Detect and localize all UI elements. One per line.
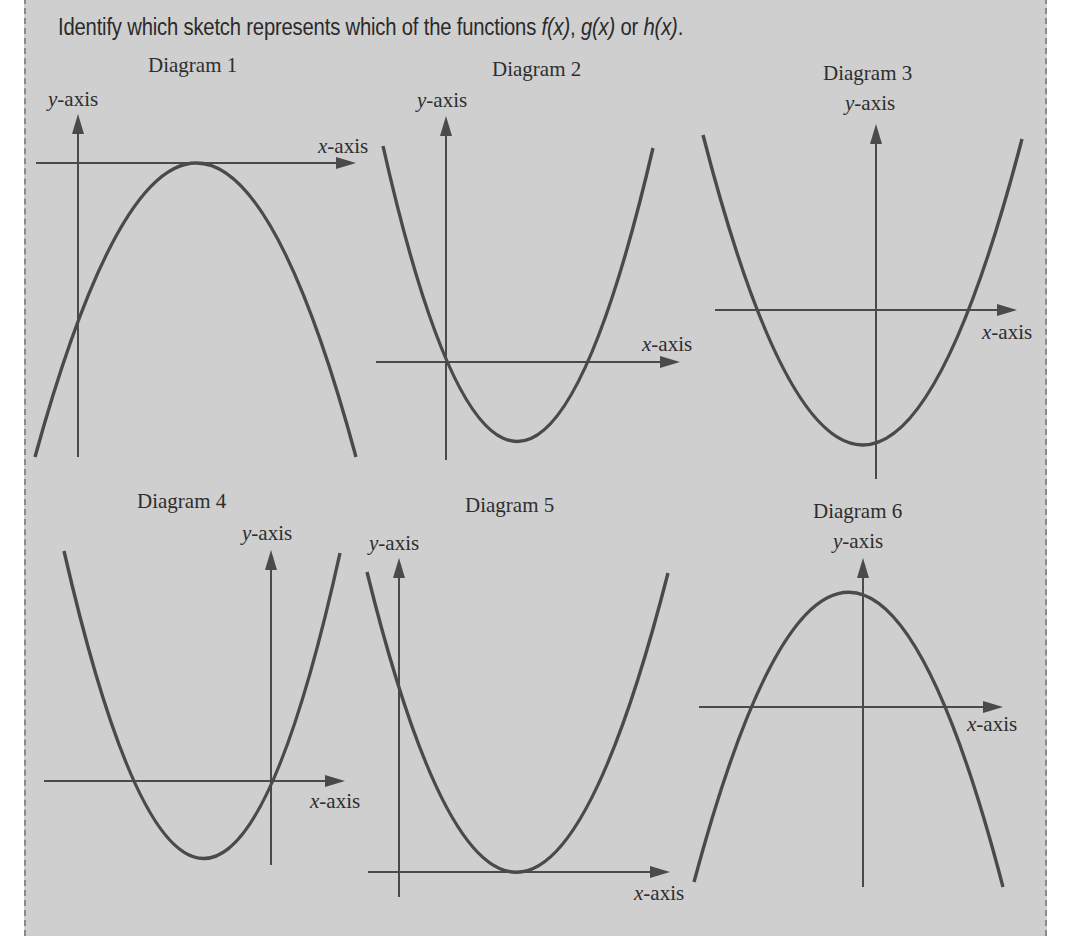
- arrow-right-icon: [650, 866, 670, 878]
- diagram-4: Diagram 4 y-axis x-axis: [44, 489, 360, 865]
- y-axis-label: y-axis: [240, 521, 292, 545]
- diagram-5: Diagram 5 y-axis x-axis: [367, 493, 684, 905]
- arrow-right-icon: [336, 157, 356, 169]
- arrow-up-icon: [857, 558, 869, 578]
- arrow-right-icon: [325, 775, 345, 787]
- diagram-title: Diagram 5: [465, 493, 554, 517]
- x-axis-label: x-axis: [981, 320, 1032, 344]
- diagram-3: Diagram 3 y-axis x-axis: [703, 61, 1032, 479]
- arrow-right-icon: [660, 356, 680, 368]
- diagrams-figure: Diagram 1 y-axis x-axis Diagram 2 y-axis…: [0, 0, 1074, 948]
- x-axis-label: x-axis: [641, 332, 692, 356]
- y-axis-label: y-axis: [367, 531, 419, 555]
- arrow-up-icon: [870, 124, 882, 144]
- arrow-up-icon: [393, 558, 405, 578]
- diagram-title: Diagram 2: [492, 57, 581, 81]
- arrow-up-icon: [72, 114, 84, 134]
- x-axis-label: x-axis: [966, 712, 1017, 736]
- parabola-curve: [367, 572, 668, 872]
- parabola-curve: [383, 146, 653, 442]
- arrow-up-icon: [440, 116, 452, 136]
- y-axis-label: y-axis: [831, 529, 883, 553]
- diagram-title: Diagram 3: [823, 61, 912, 85]
- x-axis-label: x-axis: [317, 134, 368, 158]
- diagram-6: Diagram 6 y-axis x-axis: [694, 499, 1017, 887]
- y-axis-label: y-axis: [415, 88, 467, 112]
- diagram-title: Diagram 1: [148, 53, 237, 77]
- y-axis-label: y-axis: [46, 87, 98, 111]
- diagram-title: Diagram 6: [813, 499, 902, 523]
- y-axis-label: y-axis: [843, 91, 895, 115]
- diagram-2: Diagram 2 y-axis x-axis: [376, 57, 692, 460]
- arrow-right-icon: [997, 304, 1017, 316]
- x-axis-label: x-axis: [633, 881, 684, 905]
- parabola-curve: [35, 163, 356, 457]
- diagram-title: Diagram 4: [137, 489, 227, 513]
- parabola-curve: [703, 135, 1022, 445]
- diagram-1: Diagram 1 y-axis x-axis: [35, 53, 368, 457]
- parabola-curve: [64, 551, 340, 859]
- x-axis-label: x-axis: [309, 789, 360, 813]
- parabola-curve: [694, 592, 1003, 887]
- arrow-up-icon: [265, 550, 277, 570]
